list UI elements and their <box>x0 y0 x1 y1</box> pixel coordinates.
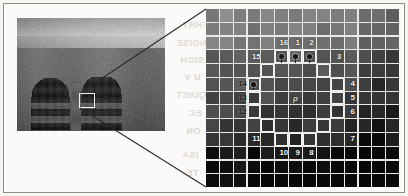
pixel-cell <box>345 23 358 36</box>
pixel-cell <box>345 147 358 160</box>
pixel-cell <box>372 92 385 105</box>
pixel-cell <box>331 9 344 22</box>
pixel-cell <box>289 9 302 22</box>
pixel-cell <box>206 147 219 160</box>
photo-canvas <box>17 18 165 131</box>
pixel-cell <box>206 9 219 22</box>
pixel-cell <box>275 78 288 91</box>
pixel-cell <box>275 92 288 105</box>
neighbour-index-16: 16 <box>277 39 291 47</box>
neighbour-index-3: 3 <box>332 53 346 61</box>
pixel-cell <box>220 174 233 187</box>
neighbour-index-9: 9 <box>291 149 305 157</box>
sample-point-cell-1 <box>289 50 302 63</box>
pixel-cell <box>206 50 219 63</box>
sample-dot-marker <box>307 54 312 59</box>
neighbour-index-5: 5 <box>346 94 360 102</box>
pixel-cell <box>331 133 344 146</box>
pixel-cell <box>275 64 288 77</box>
pixel-cell <box>234 174 247 187</box>
pixel-cell <box>206 92 219 105</box>
sample-point-cell-4 <box>331 78 344 91</box>
sample-dot-marker <box>279 54 284 59</box>
pixel-cell <box>289 64 302 77</box>
neighbour-index-4: 4 <box>346 80 360 88</box>
pixel-cell <box>372 161 385 174</box>
pixel-cell <box>248 37 261 50</box>
pixel-cell <box>248 174 261 187</box>
pixel-cell <box>206 64 219 77</box>
pixel-cell <box>372 105 385 118</box>
pixel-cell <box>261 133 274 146</box>
pixel-cell <box>220 9 233 22</box>
pixel-cell <box>261 78 274 91</box>
pixel-cell <box>234 133 247 146</box>
pixel-cell <box>275 174 288 187</box>
neighbour-index-10: 10 <box>277 149 291 157</box>
pixel-cell <box>386 119 399 132</box>
pixel-cell <box>345 119 358 132</box>
pixel-cell <box>303 105 316 118</box>
pixel-cell <box>331 64 344 77</box>
sample-point-cell-15 <box>261 64 274 77</box>
pixel-cell <box>289 105 302 118</box>
center-pixel-cell: p <box>289 92 302 105</box>
pixel-cell <box>261 92 274 105</box>
pixel-cell <box>303 119 316 132</box>
pixel-cell <box>220 133 233 146</box>
pixel-cell <box>386 147 399 160</box>
pixel-cell <box>220 161 233 174</box>
pixel-cell <box>220 147 233 160</box>
sample-point-cell-11 <box>261 119 274 132</box>
pixel-cell <box>359 50 372 63</box>
pixel-cell <box>206 161 219 174</box>
pixel-cell <box>303 9 316 22</box>
pixel-cell <box>359 147 372 160</box>
pixel-cell <box>275 23 288 36</box>
pixel-cell <box>234 37 247 50</box>
pixel-cell <box>317 78 330 91</box>
pixel-cell <box>248 161 261 174</box>
pixel-cell <box>303 92 316 105</box>
pixel-cell <box>248 64 261 77</box>
pixel-cell <box>359 133 372 146</box>
pixel-cell <box>372 64 385 77</box>
pixel-cell <box>206 78 219 91</box>
pixel-cell <box>220 92 233 105</box>
pixel-cell <box>289 78 302 91</box>
pixel-cell <box>220 64 233 77</box>
sample-dot-marker <box>251 82 256 87</box>
neighbour-index-11: 11 <box>249 135 263 143</box>
pixel-cell <box>331 174 344 187</box>
pixel-cell <box>248 23 261 36</box>
pixel-cell <box>359 78 372 91</box>
pixel-cell <box>317 174 330 187</box>
pixel-cell <box>289 161 302 174</box>
pixel-cell <box>359 92 372 105</box>
neighbour-index-7: 7 <box>346 135 360 143</box>
pixel-cell <box>275 119 288 132</box>
pixel-cell <box>386 23 399 36</box>
pixel-cell <box>386 37 399 50</box>
pixel-cell <box>359 161 372 174</box>
pixel-cell <box>359 23 372 36</box>
pixel-cell <box>331 161 344 174</box>
sample-point-cell-14 <box>248 78 261 91</box>
pixel-cell <box>359 105 372 118</box>
pixel-cell <box>372 37 385 50</box>
pixel-cell <box>317 133 330 146</box>
sample-point-cell-12 <box>248 105 261 118</box>
magnified-pixel-grid-panel: p 12345678910111213141516 <box>206 9 399 187</box>
pixel-cell <box>206 23 219 36</box>
pixel-cell <box>289 174 302 187</box>
pixel-cell <box>317 161 330 174</box>
pixel-cell <box>206 119 219 132</box>
sample-point-cell-7 <box>317 119 330 132</box>
neighbour-index-13: 13 <box>235 94 249 102</box>
pixel-cell <box>331 147 344 160</box>
pixel-cell <box>386 133 399 146</box>
pixel-cell <box>345 9 358 22</box>
pixel-cell <box>372 133 385 146</box>
pixel-cell <box>220 105 233 118</box>
source-photo-panel <box>17 18 165 131</box>
